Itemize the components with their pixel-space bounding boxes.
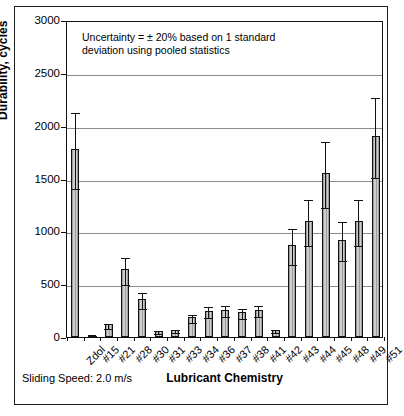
x-axis-tick-mark xyxy=(334,337,335,341)
error-bar-cap-top xyxy=(88,336,97,337)
error-bar-cap-top xyxy=(204,307,213,308)
bar-slot xyxy=(184,22,201,337)
x-axis-tick-mark xyxy=(84,337,85,341)
x-axis-tick-mark xyxy=(384,337,385,341)
error-bar-cap-bottom xyxy=(204,318,213,319)
y-axis-tick-label: 1500 xyxy=(14,174,60,186)
bar-slot xyxy=(117,22,134,337)
bar-slot xyxy=(134,22,151,337)
error-bar-cap-top xyxy=(238,309,247,310)
bar-slot xyxy=(267,22,284,337)
x-axis-tick-mark xyxy=(184,337,185,341)
x-axis-tick-mark xyxy=(200,337,201,341)
error-bar-cap-top xyxy=(104,324,113,325)
error-bar-cap-top xyxy=(154,331,163,332)
error-bar-line xyxy=(192,315,193,323)
error-bar-cap-top xyxy=(121,258,130,259)
y-axis-tick-label: 2000 xyxy=(14,121,60,133)
error-bar-line xyxy=(242,309,243,319)
error-bar-line xyxy=(75,113,76,188)
bar-slot xyxy=(351,22,368,337)
error-bar-line xyxy=(325,142,326,208)
bar-slot xyxy=(334,22,351,337)
y-axis-tick-label: 3000 xyxy=(14,15,60,27)
sliding-speed-note: Sliding Speed: 2.0 m/s xyxy=(22,372,132,384)
bar-slot xyxy=(67,22,84,337)
error-bar-cap-bottom xyxy=(371,178,380,179)
error-bar-cap-bottom xyxy=(188,323,197,324)
x-axis-tick-mark xyxy=(100,337,101,341)
y-axis-tick-label: 1000 xyxy=(14,226,60,238)
uncertainty-annotation-line1: Uncertainty = ± 20% based on 1 standard xyxy=(82,31,297,44)
x-axis-tick-mark xyxy=(217,337,218,341)
bar-slot xyxy=(367,22,384,337)
uncertainty-annotation-line2: deviation using pooled statistics xyxy=(82,44,297,57)
error-bar-cap-top xyxy=(354,200,363,201)
bar-slot xyxy=(301,22,318,337)
error-bar-cap-top xyxy=(371,98,380,99)
error-bar-cap-top xyxy=(271,330,280,331)
error-bar-cap-top xyxy=(171,330,180,331)
error-bar-cap-bottom xyxy=(238,319,247,320)
error-bar-cap-bottom xyxy=(354,246,363,247)
x-axis-tick-mark xyxy=(317,337,318,341)
error-bar-line xyxy=(358,200,359,246)
x-axis-tick-mark xyxy=(301,337,302,341)
error-bar-line xyxy=(258,306,259,317)
x-axis-tick-mark xyxy=(150,337,151,341)
error-bar-line xyxy=(342,222,343,261)
x-axis-tick-mark xyxy=(284,337,285,341)
error-bar-cap-bottom xyxy=(71,189,80,190)
y-axis-tick-label: 0 xyxy=(14,332,60,344)
bar-slot xyxy=(217,22,234,337)
x-axis-tick-mark xyxy=(267,337,268,341)
error-bar-line xyxy=(292,229,293,266)
bar-slot xyxy=(200,22,217,337)
x-axis-tick-mark xyxy=(167,337,168,341)
bar-slot xyxy=(150,22,167,337)
error-bar-cap-top xyxy=(288,229,297,230)
error-bar-line xyxy=(208,307,209,318)
error-bar-cap-bottom xyxy=(104,329,113,330)
plot-area: Uncertainty = ± 20% based on 1 standard … xyxy=(66,21,383,338)
error-bar-cap-bottom xyxy=(221,317,230,318)
bar-slot xyxy=(284,22,301,337)
x-axis-tick-mark xyxy=(134,337,135,341)
x-axis-tick-mark xyxy=(351,337,352,341)
error-bar-line xyxy=(142,293,143,308)
error-bar-cap-bottom xyxy=(171,333,180,334)
error-bar-cap-top xyxy=(188,315,197,316)
y-axis-tick-mark xyxy=(61,338,66,339)
error-bar-cap-bottom xyxy=(254,317,263,318)
error-bar-cap-bottom xyxy=(321,208,330,209)
bar-slot xyxy=(234,22,251,337)
error-bar-cap-bottom xyxy=(288,265,297,266)
bar-slot xyxy=(251,22,268,337)
y-axis-tick-label: 2500 xyxy=(14,68,60,80)
error-bar-cap-bottom xyxy=(154,334,163,335)
x-axis-tick-mark xyxy=(234,337,235,341)
error-bar-cap-bottom xyxy=(121,285,130,286)
x-axis-tick-mark xyxy=(367,337,368,341)
error-bar-cap-top xyxy=(304,200,313,201)
error-bar-line xyxy=(225,306,226,317)
bar-slot xyxy=(100,22,117,337)
x-axis-tick-mark xyxy=(251,337,252,341)
error-bar-line xyxy=(375,98,376,178)
bar-slot xyxy=(167,22,184,337)
x-axis-tick-mark xyxy=(67,337,68,341)
error-bar-line xyxy=(125,258,126,285)
error-bar-cap-bottom xyxy=(271,333,280,334)
error-bar-cap-top xyxy=(338,222,347,223)
error-bar-cap-bottom xyxy=(138,309,147,310)
y-axis-tick-label: 500 xyxy=(14,279,60,291)
error-bar-cap-bottom xyxy=(338,261,347,262)
bar-slot xyxy=(84,22,101,337)
y-axis-title: Durability, cycles xyxy=(0,0,10,120)
x-axis-tick-mark xyxy=(117,337,118,341)
error-bar-cap-top xyxy=(138,293,147,294)
error-bar-cap-top xyxy=(254,306,263,307)
error-bar-cap-top xyxy=(221,306,230,307)
bar-slot xyxy=(317,22,334,337)
